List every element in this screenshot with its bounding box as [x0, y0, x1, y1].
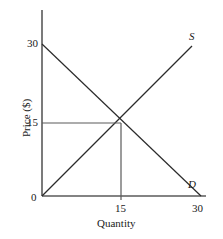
supply-curve-label: S [189, 31, 195, 42]
supply-curve [42, 46, 192, 196]
y-tick-label-15: 15 [27, 117, 38, 128]
origin-label: 0 [31, 192, 37, 203]
x-axis-title: Quantity [97, 218, 136, 229]
x-tick-label-15: 15 [115, 203, 126, 214]
x-tick-label-30: 30 [192, 203, 203, 214]
demand-curve-label: D [188, 179, 196, 190]
y-tick-label-30: 30 [27, 38, 38, 49]
supply-demand-chart: Price ($) 30 15 0 15 30 Quantity S D [0, 0, 223, 239]
